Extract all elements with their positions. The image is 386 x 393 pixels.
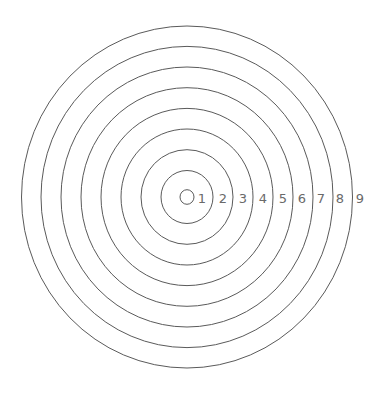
ring-label-2: 2 <box>219 191 227 206</box>
ring-label-8: 8 <box>336 191 344 206</box>
ring-6 <box>61 67 313 327</box>
concentric-ring-diagram: 123456789 <box>0 0 386 393</box>
ring-label-9: 9 <box>356 191 364 206</box>
ring-label-6: 6 <box>298 191 306 206</box>
ring-label-7: 7 <box>317 191 325 206</box>
ring-label-4: 4 <box>259 191 267 206</box>
center-circle <box>180 190 194 205</box>
ring-label-1: 1 <box>198 191 206 206</box>
ring-4 <box>101 108 273 285</box>
ring-labels-group: 123456789 <box>198 191 364 206</box>
ring-7 <box>41 46 333 347</box>
ring-label-5: 5 <box>279 191 287 206</box>
ring-label-3: 3 <box>239 191 247 206</box>
